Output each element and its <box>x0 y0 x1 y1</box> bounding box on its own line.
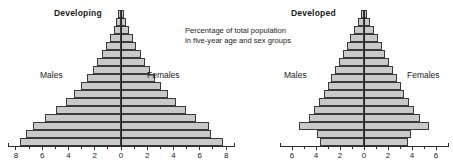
axis-tick-major <box>42 146 43 150</box>
axis-tick-major <box>436 146 437 150</box>
axis-end-cap <box>448 143 449 147</box>
bar-female <box>121 138 223 146</box>
axis-tick-label: 4 <box>58 151 78 160</box>
bar-male <box>331 74 364 82</box>
axis-tick-minor <box>304 146 305 149</box>
axis-tick-major <box>412 146 413 150</box>
axis-tick-major <box>147 146 148 150</box>
bar-female <box>121 42 136 50</box>
axis-tick-label: 4 <box>306 151 326 160</box>
bar-male <box>102 50 121 58</box>
axis-tick-minor <box>376 146 377 149</box>
x-axis-developed: 6420246 <box>280 146 448 147</box>
bar-female <box>364 98 409 106</box>
axis-tick-major <box>316 146 317 150</box>
axis-tick-label: 2 <box>137 151 157 160</box>
x-axis-developing: 864202468 <box>8 146 234 147</box>
bar-female <box>364 10 367 18</box>
axis-tick-label: 8 <box>216 151 236 160</box>
bar-female <box>121 66 150 74</box>
axis-tick-minor <box>212 146 213 149</box>
bar-female <box>121 122 209 130</box>
axis-tick-label: 6 <box>282 151 302 160</box>
axis-tick-minor <box>160 146 161 149</box>
axis-tick-minor <box>186 146 187 149</box>
bar-female <box>121 90 168 98</box>
axis-tick-major <box>94 146 95 150</box>
axis-tick-major <box>121 146 122 150</box>
females-label-developed: Females <box>407 70 440 80</box>
panel-developed: Developed Males Females 6420246 <box>276 0 453 168</box>
pyramid-center-axis <box>121 10 122 146</box>
bar-female <box>364 90 404 98</box>
axis-tick-label: 6 <box>190 151 210 160</box>
bar-male <box>56 106 121 114</box>
bar-male <box>320 138 364 146</box>
bar-male <box>309 114 364 122</box>
bar-female <box>364 122 429 130</box>
bar-female <box>364 18 370 26</box>
axis-tick-label: 2 <box>330 151 350 160</box>
bar-female <box>121 98 176 106</box>
bar-male <box>45 114 121 122</box>
axis-tick-minor <box>400 146 401 149</box>
bar-female <box>121 34 133 42</box>
axis-tick-minor <box>107 146 108 149</box>
axis-tick-major <box>340 146 341 150</box>
axis-tick-minor <box>55 146 56 149</box>
bar-female <box>364 82 401 90</box>
axis-tick-major <box>292 146 293 150</box>
bar-male <box>74 90 121 98</box>
axis-tick-minor <box>328 146 329 149</box>
axis-tick-minor <box>81 146 82 149</box>
bar-male <box>20 138 121 146</box>
bar-male <box>335 66 364 74</box>
bar-male <box>317 130 364 138</box>
bar-female <box>364 34 378 42</box>
axis-tick-label: 2 <box>85 151 105 160</box>
axis-tick-label: 8 <box>6 151 26 160</box>
axis-tick-minor <box>352 146 353 149</box>
bar-female <box>121 114 196 122</box>
axis-tick-minor <box>424 146 425 149</box>
bar-female <box>121 58 145 66</box>
bar-male <box>347 42 364 50</box>
bar-male <box>328 82 364 90</box>
bar-female <box>364 114 420 122</box>
bar-male <box>81 82 121 90</box>
axis-tick-major <box>68 146 69 150</box>
bar-male <box>87 74 121 82</box>
axis-tick-label: 0 <box>354 151 374 160</box>
axis-tick-minor <box>29 146 30 149</box>
bar-female <box>364 50 385 58</box>
axis-tick-label: 2 <box>378 151 398 160</box>
bar-female <box>364 138 408 146</box>
bar-male <box>26 130 121 138</box>
axis-tick-label: 4 <box>402 151 422 160</box>
axis-tick-minor <box>134 146 135 149</box>
females-label-developing: Females <box>147 70 180 80</box>
axis-tick-label: 0 <box>111 151 131 160</box>
bar-female <box>121 50 141 58</box>
bar-female <box>121 18 126 26</box>
axis-tick-major <box>364 146 365 150</box>
bar-male <box>314 106 364 114</box>
bar-female <box>364 66 393 74</box>
bar-female <box>364 74 397 82</box>
bar-male <box>110 34 121 42</box>
bar-female <box>121 26 129 34</box>
bar-male <box>93 66 121 74</box>
population-pyramid-figure: Developing Males Females 864202468 Perce… <box>0 0 453 168</box>
bar-male <box>106 42 121 50</box>
males-label-developing: Males <box>40 70 63 80</box>
bar-female <box>364 130 411 138</box>
axis-tick-major <box>388 146 389 150</box>
bar-male <box>319 98 364 106</box>
axis-tick-major <box>226 146 227 150</box>
bar-male <box>66 98 121 106</box>
bar-male <box>339 58 364 66</box>
axis-tick-major <box>15 146 16 150</box>
bar-male <box>97 58 121 66</box>
axis-end-cap <box>8 143 9 147</box>
axis-tick-major <box>199 146 200 150</box>
